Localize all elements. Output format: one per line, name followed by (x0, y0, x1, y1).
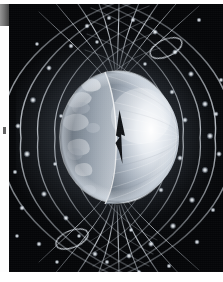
magnetosphere-illustration (9, 4, 223, 272)
scan-edge-tick (3, 127, 6, 134)
page-margin-left-lower (0, 26, 9, 282)
scan-edge-band (0, 4, 9, 26)
page-margin-bottom (0, 272, 223, 282)
page-margin-top (0, 0, 223, 4)
figure-page (0, 0, 223, 282)
film-grain (9, 4, 223, 272)
